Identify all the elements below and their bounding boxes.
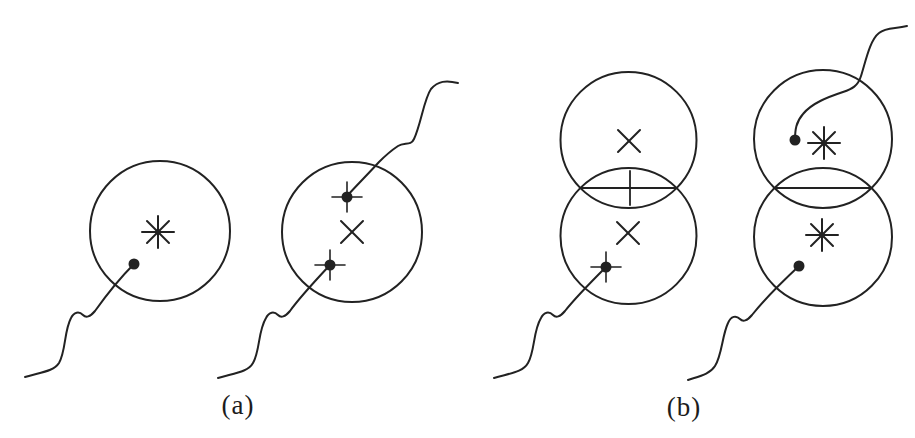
panel-a bbox=[25, 81, 458, 378]
asterisk-marker bbox=[806, 219, 838, 251]
trajectory-curve bbox=[494, 267, 606, 378]
figure-canvas bbox=[0, 0, 915, 438]
trajectory-curve bbox=[688, 266, 799, 380]
asterisk-marker bbox=[142, 216, 174, 248]
panel-b bbox=[494, 26, 907, 380]
trajectory-curve bbox=[347, 81, 458, 196]
figure-page: (a) (b) bbox=[0, 0, 915, 438]
trajectory-curve bbox=[218, 265, 330, 378]
asterisk-marker bbox=[808, 127, 840, 159]
x-marker bbox=[341, 221, 363, 243]
trajectory-curve bbox=[25, 264, 134, 377]
x-marker bbox=[618, 130, 640, 152]
panel-a-caption: (a) bbox=[222, 390, 255, 421]
x-marker bbox=[617, 222, 639, 244]
panel-b-caption: (b) bbox=[667, 392, 701, 423]
plus-marker bbox=[614, 171, 646, 205]
